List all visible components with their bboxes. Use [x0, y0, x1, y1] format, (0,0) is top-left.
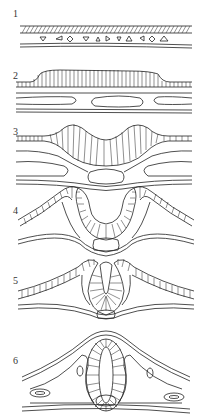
- stage-1-drawing: [0, 0, 212, 60]
- stage-2-drawing: [0, 60, 212, 120]
- stage-6-drawing: [0, 315, 212, 415]
- stage-5-drawing: [0, 245, 212, 320]
